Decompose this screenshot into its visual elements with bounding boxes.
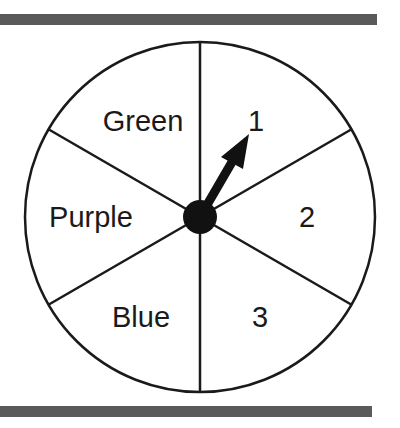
spinner-diagram: Green 1 Purple 2 Blue 3: [0, 0, 400, 428]
section-label-blue: Blue: [112, 301, 170, 333]
spinner-hub: [183, 200, 217, 234]
section-label-purple: Purple: [49, 201, 133, 233]
section-label-2: 2: [299, 201, 315, 233]
section-label-3: 3: [252, 301, 268, 333]
section-label-1: 1: [248, 105, 264, 137]
section-label-green: Green: [103, 105, 184, 137]
